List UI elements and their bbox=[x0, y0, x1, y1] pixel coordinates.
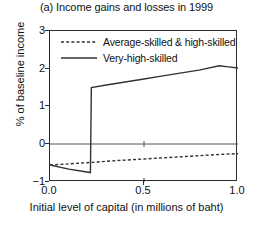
x-tick-label-10: 1.0 bbox=[217, 184, 253, 196]
legend-label-average-high-skilled: Average-skilled & high-skilled bbox=[103, 36, 235, 48]
y-tick-mark-minus1 bbox=[45, 181, 49, 182]
series-line-average-high-skilled bbox=[50, 154, 238, 165]
legend-item-average-high-skilled: Average-skilled & high-skilled bbox=[61, 35, 237, 48]
dashed-line-key-icon bbox=[61, 37, 97, 47]
figure-container: (a) Income gains and losses in 1999 3 2 … bbox=[0, 0, 253, 231]
x-tick-label-0: 0.0 bbox=[29, 184, 69, 196]
chart-title: (a) Income gains and losses in 1999 bbox=[0, 1, 253, 13]
legend: Average-skilled & high-skilled Very-high… bbox=[61, 35, 237, 67]
legend-label-very-high-skilled: Very-high-skilled bbox=[103, 52, 177, 64]
x-axis-title: Initial level of capital (in millions of… bbox=[0, 201, 253, 213]
series-line-very-high-skilled bbox=[50, 66, 238, 173]
legend-item-very-high-skilled: Very-high-skilled bbox=[61, 51, 237, 64]
plot-area: Average-skilled & high-skilled Very-high… bbox=[49, 30, 237, 181]
y-axis-title: % of baseline income bbox=[14, 0, 26, 149]
solid-line-key-icon bbox=[61, 53, 97, 63]
x-tick-label-05: 0.5 bbox=[123, 184, 163, 196]
